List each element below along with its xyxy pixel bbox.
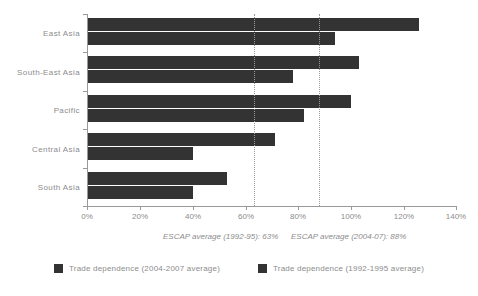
chart-legend: Trade dependence (2004-2007 average) Tra… xyxy=(0,264,478,273)
x-tick-100 xyxy=(351,206,352,210)
trade-dependence-bar-chart: 0% 20% 40% 60% 80% 100% 120% 140% East A… xyxy=(0,0,478,296)
x-tick-20 xyxy=(140,206,141,210)
bar-pacific-2004-2007 xyxy=(88,95,351,108)
y-tick-3 xyxy=(83,129,87,130)
y-tick-2 xyxy=(83,91,87,92)
y-axis-label-east-asia: East Asia xyxy=(43,29,80,38)
annotation-escap-average-1992-95: ESCAP average (1992-95): 63% xyxy=(163,232,278,241)
y-axis-label-pacific: Pacific xyxy=(54,106,80,115)
annotation-escap-average-2004-07: ESCAP average (2004-07): 88% xyxy=(291,232,406,241)
y-axis-label-south-asia: South Asia xyxy=(38,183,80,192)
x-tick-140 xyxy=(456,206,457,210)
bar-east-asia-1992-1995 xyxy=(88,32,335,45)
bars-layer xyxy=(88,14,456,206)
x-tick-label-100: 100% xyxy=(341,212,361,221)
bar-south-east-asia-2004-2007 xyxy=(88,56,359,69)
bar-central-asia-1992-1995 xyxy=(88,147,193,160)
bar-group-east-asia xyxy=(88,14,456,52)
x-tick-label-140: 140% xyxy=(446,212,466,221)
bar-pacific-1992-1995 xyxy=(88,109,304,122)
reference-line-escap-1992-95 xyxy=(254,14,255,206)
legend-label-2004-2007: Trade dependence (2004-2007 average) xyxy=(69,264,220,273)
y-tick-bottom xyxy=(83,206,87,207)
bar-central-asia-2004-2007 xyxy=(88,133,275,146)
y-tick-1 xyxy=(83,52,87,53)
y-tick-4 xyxy=(83,168,87,169)
y-axis-label-south-east-asia: South-East Asia xyxy=(17,68,80,77)
bar-south-asia-1992-1995 xyxy=(88,186,193,199)
bar-group-pacific xyxy=(88,91,456,129)
x-tick-0 xyxy=(87,206,88,210)
x-tick-label-40: 40% xyxy=(185,212,201,221)
bar-group-central-asia xyxy=(88,129,456,167)
legend-item-2004-2007: Trade dependence (2004-2007 average) xyxy=(54,264,220,273)
y-tick-top xyxy=(83,14,87,15)
plot-area xyxy=(87,14,456,206)
y-axis-label-central-asia: Central Asia xyxy=(32,145,80,154)
x-tick-label-80: 80% xyxy=(290,212,306,221)
legend-swatch-icon-2004-2007 xyxy=(54,264,63,273)
x-tick-label-0: 0% xyxy=(81,212,93,221)
bar-group-south-east-asia xyxy=(88,52,456,90)
legend-item-1992-1995: Trade dependence (1992-1995 average) xyxy=(258,264,424,273)
x-tick-label-60: 60% xyxy=(238,212,254,221)
x-tick-80 xyxy=(298,206,299,210)
bar-south-asia-2004-2007 xyxy=(88,172,227,185)
x-tick-120 xyxy=(404,206,405,210)
x-tick-40 xyxy=(193,206,194,210)
bar-group-south-asia xyxy=(88,168,456,206)
x-tick-60 xyxy=(246,206,247,210)
reference-line-escap-2004-07 xyxy=(319,14,320,206)
legend-swatch-icon-1992-1995 xyxy=(258,264,267,273)
x-tick-label-20: 20% xyxy=(132,212,148,221)
legend-label-1992-1995: Trade dependence (1992-1995 average) xyxy=(273,264,424,273)
x-tick-label-120: 120% xyxy=(394,212,414,221)
bar-south-east-asia-1992-1995 xyxy=(88,70,293,83)
x-axis-line xyxy=(87,206,456,207)
